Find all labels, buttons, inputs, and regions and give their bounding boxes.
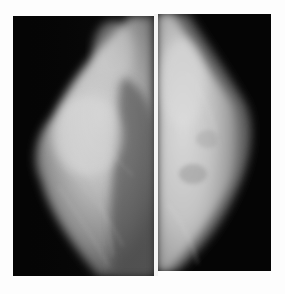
left-breast-tissue	[13, 16, 154, 276]
right-mammogram-panel	[158, 14, 271, 271]
left-mammogram-panel	[13, 16, 154, 276]
mammogram-figure	[0, 0, 285, 294]
right-breast-tissue	[158, 14, 271, 271]
